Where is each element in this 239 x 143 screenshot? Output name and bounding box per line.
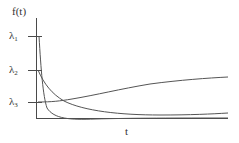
tick-label-lambda-3: λ3	[9, 96, 18, 107]
lambda-3-subscript: 3	[14, 101, 18, 109]
x-axis-label: t	[125, 126, 128, 137]
curve-lambda-2	[38, 70, 228, 115]
curve-lambda-3	[38, 77, 228, 102]
plot-canvas	[0, 0, 239, 143]
tick-label-lambda-2: λ2	[9, 64, 18, 75]
curve-lambda-1	[39, 36, 228, 119]
lambda-1-subscript: 1	[14, 35, 18, 43]
exponential-decay-figure: f(t) t λ1 λ2 λ3	[0, 0, 239, 143]
lambda-2-subscript: 2	[14, 69, 18, 77]
tick-label-lambda-1: λ1	[9, 30, 18, 41]
y-axis-label: f(t)	[12, 6, 26, 17]
